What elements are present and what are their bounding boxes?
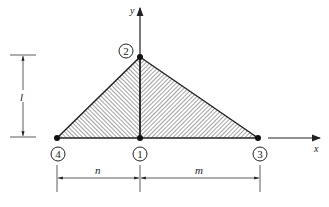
node-dot-1 xyxy=(137,135,143,141)
dimension-height: l xyxy=(10,55,36,137)
svg-text:1: 1 xyxy=(137,148,143,160)
node-label-1: 1 xyxy=(133,147,147,161)
finite-element-diagram: y x 2 4 1 3 l xyxy=(0,0,329,207)
svg-text:4: 4 xyxy=(55,148,61,160)
dimension-m-label: m xyxy=(195,164,203,176)
element-left xyxy=(57,57,140,138)
svg-text:3: 3 xyxy=(257,148,263,160)
dimension-widths: n m xyxy=(57,164,260,192)
x-axis: x xyxy=(268,138,320,154)
y-axis-label: y xyxy=(129,5,135,16)
dimension-l-label: l xyxy=(20,91,23,103)
node-dot-4 xyxy=(54,135,60,141)
node-dot-2 xyxy=(137,54,143,60)
x-axis-label: x xyxy=(313,143,319,154)
dimension-n-label: n xyxy=(95,164,101,176)
element-right xyxy=(140,57,258,138)
node-label-3: 3 xyxy=(253,147,267,161)
node-label-4: 4 xyxy=(51,147,65,161)
svg-text:2: 2 xyxy=(123,45,129,57)
node-label-2: 2 xyxy=(119,44,133,58)
node-dot-3 xyxy=(255,135,261,141)
